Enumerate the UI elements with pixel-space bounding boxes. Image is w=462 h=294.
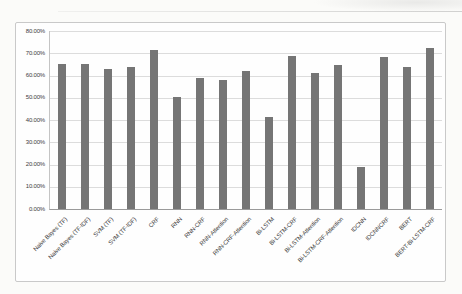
x-axis-label: RNN	[170, 216, 184, 230]
gridline	[50, 53, 442, 54]
scan-artifact-smudge	[312, 0, 462, 12]
gridline	[50, 31, 442, 32]
bar	[219, 80, 227, 209]
y-axis-label: 40.00%	[16, 117, 45, 124]
y-axis-label: 30.00%	[16, 139, 45, 146]
x-axis-label: Naive Bayes (TF-IDF)	[47, 216, 92, 261]
bar	[81, 64, 89, 209]
x-axis-label: BERT	[398, 216, 414, 232]
plot-area	[49, 31, 442, 210]
bar	[127, 67, 135, 209]
bar	[311, 73, 319, 209]
bar	[334, 65, 342, 209]
bar	[242, 71, 250, 209]
bar	[173, 97, 181, 209]
y-axis-label: 60.00%	[16, 72, 45, 79]
bar	[426, 48, 434, 209]
x-axis-label: Bi-LSTM-CRF-Attention	[297, 216, 345, 264]
x-axis-label: IDCNN	[350, 216, 368, 234]
bar	[380, 57, 388, 209]
bar	[357, 167, 365, 209]
bar	[403, 67, 411, 209]
bar	[288, 56, 296, 209]
y-axis-label: 70.00%	[16, 50, 45, 57]
bar	[104, 69, 112, 209]
x-axis-label: IDCNNCRF	[365, 216, 392, 243]
y-axis-label: 80.00%	[16, 28, 45, 35]
bar	[150, 50, 158, 209]
bar-chart: 0.00%10.00%20.00%30.00%40.00%50.00%60.00…	[15, 22, 446, 282]
bar	[196, 78, 204, 209]
x-axis-label: CRF	[147, 216, 160, 229]
y-axis-label: 0.00%	[16, 206, 45, 213]
bar	[58, 64, 66, 209]
y-axis-label: 20.00%	[16, 161, 45, 168]
y-axis-label: 10.00%	[16, 183, 45, 190]
bar	[265, 117, 273, 209]
y-axis-label: 50.00%	[16, 94, 45, 101]
x-axis-label: SVM (TF)	[92, 216, 115, 239]
x-axis-label: Bi-LSTM	[255, 216, 276, 237]
